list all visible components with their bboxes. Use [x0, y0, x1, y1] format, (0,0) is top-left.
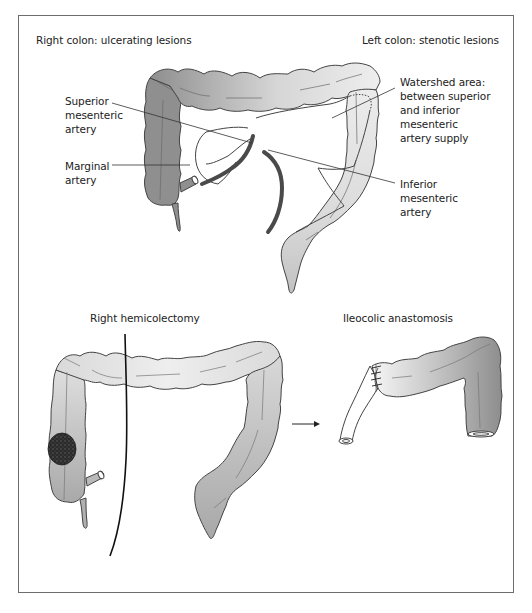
top-colon — [144, 63, 380, 293]
marginal-arcade-inner — [206, 138, 252, 164]
transverse-colon — [150, 63, 380, 111]
bottom-appendix — [80, 498, 87, 528]
heading-ileocolic-anastomosis: Ileocolic anastomosis — [343, 311, 453, 325]
bottom-colon — [48, 341, 283, 538]
anastomosis — [339, 337, 502, 444]
label-superior-mesenteric-artery: Superior mesenteric artery — [65, 94, 123, 136]
label-watershed-area: Watershed area: between superior and inf… — [400, 75, 490, 145]
label-inferior-mesenteric-artery: Inferior mesenteric artery — [400, 177, 458, 219]
descending-colon — [281, 89, 379, 293]
superior-mesenteric-artery — [202, 136, 253, 184]
ileum-segment — [340, 366, 380, 442]
heading-right-hemicolectomy: Right hemicolectomy — [90, 311, 200, 325]
heading-left-colon: Left colon: stenotic lesions — [362, 33, 499, 47]
ascending-colon — [144, 78, 181, 205]
appendix — [172, 203, 180, 231]
anastomosis-colon — [372, 337, 502, 436]
label-marginal-artery: Marginal artery — [65, 159, 109, 187]
inferior-mesenteric-artery — [264, 152, 282, 232]
tumor — [48, 433, 76, 465]
heading-right-colon: Right colon: ulcerating lesions — [36, 33, 192, 47]
right-arrow — [292, 421, 320, 427]
